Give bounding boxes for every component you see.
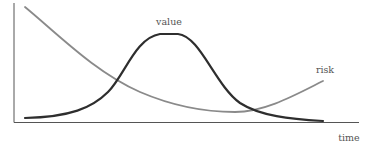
risk-label: risk xyxy=(316,64,334,75)
x-axis-label: time xyxy=(338,132,360,143)
chart: value risk time xyxy=(0,0,380,149)
value-curve xyxy=(25,34,323,121)
value-label: value xyxy=(155,16,182,27)
